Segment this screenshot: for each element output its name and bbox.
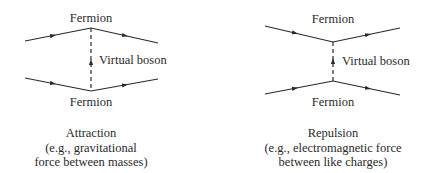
attraction-bottom-fermion-label: Fermion — [70, 95, 112, 109]
caption-example: (e.g., gravitational — [34, 141, 147, 156]
attraction-top-fermion-label: Fermion — [70, 11, 112, 25]
repulsion-bottom-fermion-label: Fermion — [312, 95, 354, 109]
caption-example: (e.g., electromagnetic force — [264, 141, 401, 156]
repulsion-caption: Repulsion (e.g., electromagnetic force b… — [264, 126, 401, 170]
caption-title: Repulsion — [264, 126, 401, 141]
caption-example-cont: between like charges) — [264, 155, 401, 170]
top-fermion-line — [265, 26, 400, 42]
bottom-fermion-line — [265, 81, 400, 95]
repulsion-boson-label: Virtual boson — [342, 54, 410, 68]
attraction-caption: Attraction (e.g., gravitational force be… — [34, 126, 147, 170]
caption-example-cont: force between masses) — [34, 155, 147, 170]
caption-title: Attraction — [34, 126, 147, 141]
attraction-boson-label: Virtual boson — [99, 53, 167, 67]
repulsion-top-fermion-label: Fermion — [312, 12, 354, 26]
